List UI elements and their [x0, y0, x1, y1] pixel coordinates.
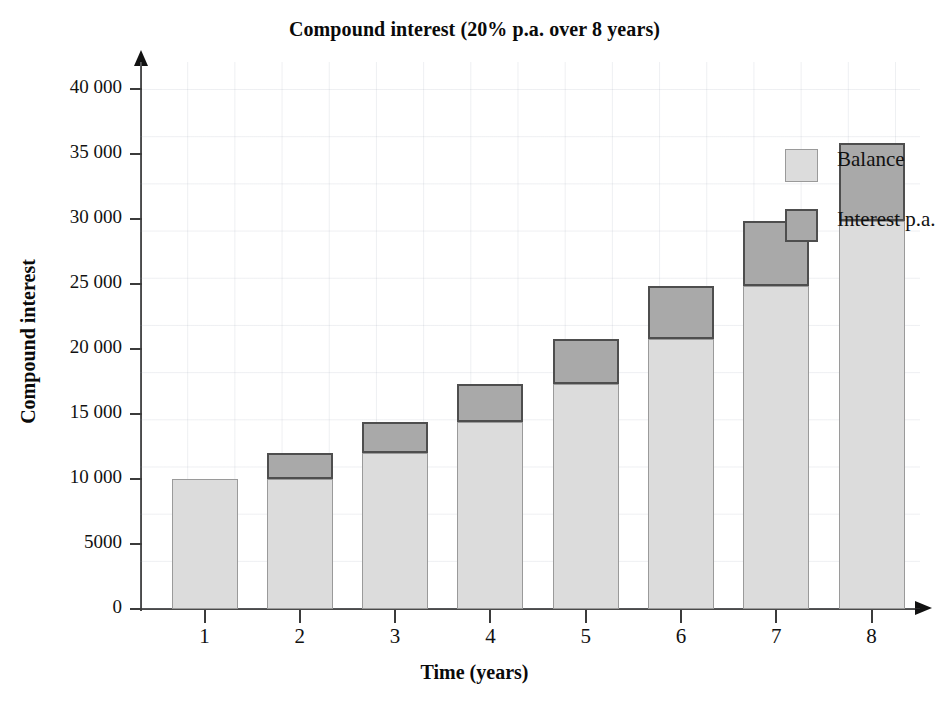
compound-interest-chart: Compound interest (20% p.a. over 8 years… — [0, 0, 949, 709]
y-axis-tick-label: 20 000 — [30, 336, 122, 358]
y-axis-tick-label: 35 000 — [30, 141, 122, 163]
y-axis-tick-label: 15 000 — [30, 401, 122, 423]
chart-title: Compound interest (20% p.a. over 8 years… — [0, 18, 949, 41]
bar-segment-balance — [839, 221, 905, 609]
y-axis-tick — [130, 478, 142, 480]
y-axis-tick — [130, 348, 142, 350]
y-axis-tick — [130, 543, 142, 545]
y-axis-tick-label: 0 — [30, 596, 122, 618]
y-axis-tick — [130, 153, 142, 155]
y-axis-tick — [130, 413, 142, 415]
x-axis-tick — [585, 610, 587, 623]
x-axis-tick — [680, 610, 682, 623]
bar-segment-balance — [553, 384, 619, 609]
x-axis-tick-label: 1 — [175, 624, 235, 649]
bar-segment-balance — [362, 453, 428, 609]
bar-segment-interest — [648, 286, 714, 340]
y-axis-tick-label: 40 000 — [30, 76, 122, 98]
plot-area: Balance Interest p.a. — [140, 62, 920, 609]
x-axis-tick-label: 8 — [842, 624, 902, 649]
y-axis-tick — [130, 88, 142, 90]
y-axis-tick-label: 25 000 — [30, 271, 122, 293]
bar-segment-interest — [362, 422, 428, 453]
x-axis-tick — [871, 610, 873, 623]
x-axis-tick-label: 7 — [746, 624, 806, 649]
x-axis-tick — [204, 610, 206, 623]
x-axis-tick — [299, 610, 301, 623]
x-axis-tick-label: 3 — [365, 624, 425, 649]
x-axis-tick-label: 5 — [556, 624, 616, 649]
x-axis-title: Time (years) — [0, 661, 949, 684]
x-axis-tick-label: 6 — [651, 624, 711, 649]
y-axis-tick — [130, 608, 142, 610]
y-axis-tick-label: 10 000 — [30, 466, 122, 488]
y-axis-tick — [130, 283, 142, 285]
bar-segment-interest — [553, 339, 619, 384]
bar-segment-balance — [172, 479, 238, 609]
y-axis-tick-label: 30 000 — [30, 206, 122, 228]
legend-swatch-interest-icon — [785, 209, 818, 242]
bar-segment-balance — [648, 339, 714, 609]
x-axis-tick-label: 4 — [460, 624, 520, 649]
bar-segment-balance — [267, 479, 333, 609]
x-axis-tick — [489, 610, 491, 623]
bar-segment-interest — [267, 453, 333, 479]
x-axis-tick — [394, 610, 396, 623]
x-axis-tick-label: 2 — [270, 624, 330, 649]
legend-label-balance: Balance — [837, 147, 905, 172]
legend-swatch-balance-icon — [785, 149, 818, 182]
y-axis-tick — [130, 218, 142, 220]
legend-label-interest: Interest p.a. — [837, 207, 936, 232]
bar-segment-balance — [457, 422, 523, 609]
bar-segment-balance — [743, 286, 809, 609]
bar-segment-interest — [457, 384, 523, 421]
x-axis-tick — [775, 610, 777, 623]
y-axis-tick-label: 5000 — [30, 531, 122, 553]
